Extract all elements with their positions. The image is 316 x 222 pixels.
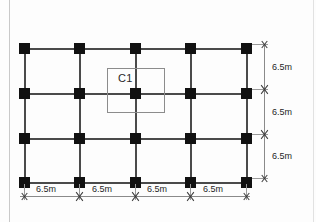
beam-col-2: [79, 48, 81, 186]
vertical-dimension-label-1: 6.5m: [272, 62, 292, 72]
column-node-r2c4: [185, 88, 196, 99]
column-node-r1c1: [19, 43, 30, 54]
column-node-r3c2: [74, 133, 85, 144]
column-node-r1c4: [185, 43, 196, 54]
beam-col-1: [24, 48, 26, 186]
dim-tick-v-2: [260, 130, 269, 139]
dim-tick-v-start: [260, 40, 269, 49]
column-node-r3c3: [130, 133, 141, 144]
dim-tick-h-3: [186, 192, 195, 201]
dim-tick-h-start: [20, 192, 29, 201]
column-node-r1c3: [130, 43, 141, 54]
dim-tick-h-end: [242, 192, 251, 201]
column-node-r3c1: [19, 133, 30, 144]
column-node-r3c5: [241, 133, 252, 144]
column-node-r3c4: [185, 133, 196, 144]
beam-col-5: [246, 48, 248, 186]
column-node-r1c2: [74, 43, 85, 54]
horizontal-dimension-label-1: 6.5m: [36, 184, 56, 194]
horizontal-dimension-label-2: 6.5m: [92, 184, 112, 194]
dim-tick-h-1: [75, 192, 84, 201]
column-node-r2c2: [74, 88, 85, 99]
vertical-dimension-line: [264, 44, 265, 179]
vertical-dimension-label-2: 6.5m: [272, 107, 292, 117]
dim-tick-v-1: [260, 85, 269, 94]
c1-callout-label: C1: [118, 72, 132, 84]
horizontal-dimension-label-3: 6.5m: [147, 184, 167, 194]
column-node-r1c5: [241, 43, 252, 54]
column-node-r2c5: [241, 88, 252, 99]
beam-col-4: [190, 48, 192, 186]
dim-tick-h-2: [131, 192, 140, 201]
structural-grid-plan-figure: C1 6.5m 6.5m 6.5m 6.5m 6.5m 6.5m 6.5m: [0, 0, 316, 222]
horizontal-dimension-label-4: 6.5m: [203, 184, 223, 194]
column-node-r2c1: [19, 88, 30, 99]
vertical-dimension-label-3: 6.5m: [272, 151, 292, 161]
dim-tick-v-end: [260, 174, 269, 183]
column-node-r2c3: [130, 88, 141, 99]
